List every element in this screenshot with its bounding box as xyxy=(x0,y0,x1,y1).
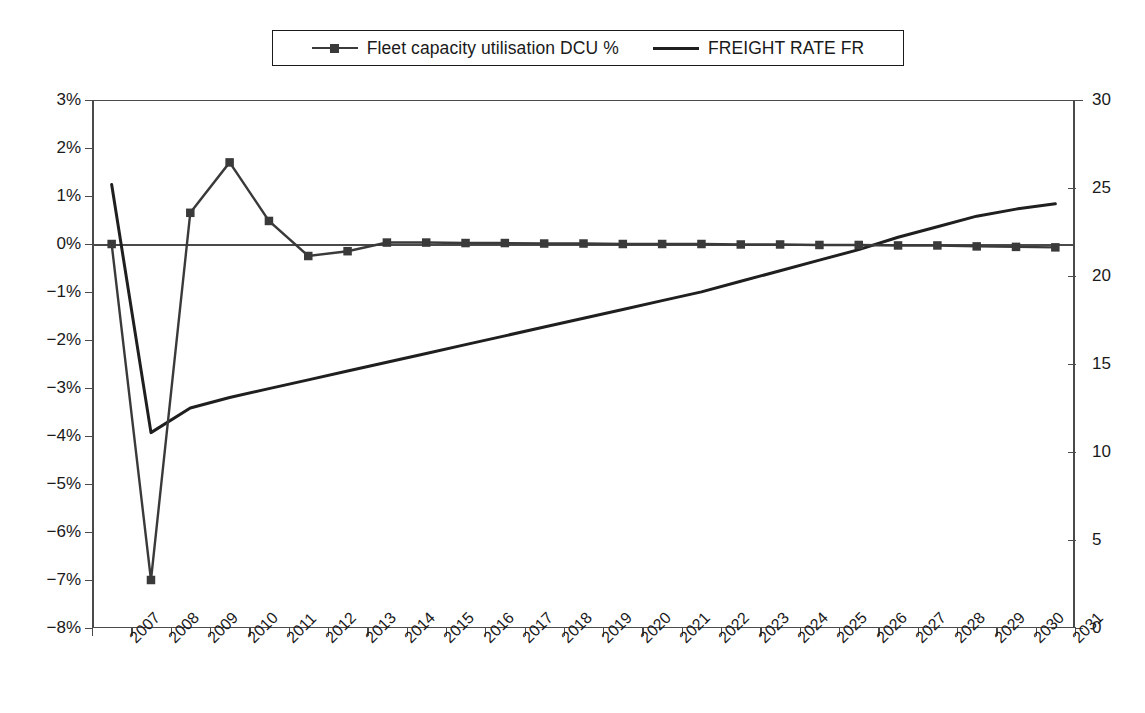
x-tick-label: 2031 xyxy=(1069,634,1082,647)
left-tick-label: 1% xyxy=(56,186,81,206)
dcu-data-point xyxy=(147,576,156,585)
right-tick-label: 30 xyxy=(1092,90,1111,110)
dcu-data-point xyxy=(776,240,785,249)
dcu-markers xyxy=(107,158,1059,584)
left-tick-label: 2% xyxy=(56,138,81,158)
left-tick-label: −3% xyxy=(47,378,82,398)
left-tick-label: −4% xyxy=(47,426,82,446)
dcu-data-point xyxy=(540,239,549,248)
x-tick-label: 2008 xyxy=(165,634,178,647)
dcu-data-point xyxy=(343,247,352,256)
chart-figure: Fleet capacity utilisation DCU % FREIGHT… xyxy=(0,0,1145,713)
left-tick xyxy=(85,436,92,437)
x-tick-label: 2028 xyxy=(951,634,964,647)
plot-area: 3%2%1%0%−1%−2%−3%−4%−5%−6%−7%−8% 3025201… xyxy=(92,100,1075,628)
left-tick-label: −8% xyxy=(47,618,82,638)
x-tick-label: 2027 xyxy=(912,634,925,647)
x-tick-label: 2016 xyxy=(480,634,493,647)
left-tick-label: −2% xyxy=(47,330,82,350)
left-tick-label: −5% xyxy=(47,474,82,494)
left-tick xyxy=(85,196,92,197)
dcu-data-point xyxy=(265,217,274,226)
x-tick-label: 2015 xyxy=(440,634,453,647)
right-tick-label: 5 xyxy=(1092,530,1101,550)
left-tick-label: −6% xyxy=(47,522,82,542)
x-tick-label: 2022 xyxy=(715,634,728,647)
x-tick-label: 2024 xyxy=(794,634,807,647)
x-tick-label: 2019 xyxy=(598,634,611,647)
x-tick-label: 2011 xyxy=(283,634,296,647)
x-tick-label: 2012 xyxy=(322,634,335,647)
legend-item-freight-rate: FREIGHT RATE FR xyxy=(653,38,864,59)
freight-rate-line xyxy=(112,184,1056,432)
dcu-data-point xyxy=(658,240,667,249)
right-tick-label: 20 xyxy=(1092,266,1111,286)
x-tick-label: 2014 xyxy=(401,634,414,647)
dcu-data-point xyxy=(579,239,588,248)
legend-label-dcu: Fleet capacity utilisation DCU % xyxy=(367,38,619,59)
x-tick-label: 2026 xyxy=(873,634,886,647)
dcu-data-point xyxy=(304,252,313,261)
dcu-data-point xyxy=(461,239,470,248)
series-layer xyxy=(92,100,1075,628)
right-tick xyxy=(1075,100,1083,101)
legend-marker-plain-line-icon xyxy=(653,42,699,54)
dcu-data-point xyxy=(422,238,431,247)
right-tick-label: 25 xyxy=(1092,178,1111,198)
left-tick xyxy=(85,292,92,293)
x-tick-label: 2021 xyxy=(676,634,689,647)
left-tick xyxy=(85,340,92,341)
dcu-data-point xyxy=(383,238,392,247)
left-tick xyxy=(85,484,92,485)
dcu-data-point xyxy=(1012,243,1021,252)
x-tick-label: 2013 xyxy=(362,634,375,647)
dcu-data-point xyxy=(854,241,863,250)
x-tick-label: 2018 xyxy=(558,634,571,647)
left-tick-label: −1% xyxy=(47,282,82,302)
dcu-data-point xyxy=(972,242,981,251)
x-tick-label: 2023 xyxy=(755,634,768,647)
right-tick-label: 15 xyxy=(1092,354,1111,374)
legend-item-dcu: Fleet capacity utilisation DCU % xyxy=(312,38,619,59)
dcu-data-point xyxy=(225,158,234,167)
x-tick-label: 2017 xyxy=(519,634,532,647)
dcu-data-point xyxy=(1051,243,1060,252)
dcu-data-point xyxy=(815,241,824,250)
x-tick-label: 2009 xyxy=(204,634,217,647)
left-tick xyxy=(85,532,92,533)
x-tick-label: 2007 xyxy=(126,634,139,647)
dcu-line xyxy=(112,162,1056,580)
x-tick-label: 2020 xyxy=(637,634,650,647)
left-tick xyxy=(85,244,92,245)
dcu-data-point xyxy=(501,239,510,248)
legend-marker-line-with-square-marker-icon xyxy=(312,42,358,54)
dcu-data-point xyxy=(619,240,628,249)
left-tick-label: 3% xyxy=(56,90,81,110)
dcu-data-point xyxy=(933,241,942,250)
left-tick xyxy=(85,580,92,581)
left-tick xyxy=(85,388,92,389)
x-tick-label: 2010 xyxy=(244,634,257,647)
x-tick xyxy=(92,627,93,636)
dcu-data-point xyxy=(107,240,116,249)
left-tick xyxy=(85,100,92,101)
dcu-data-point xyxy=(737,240,746,249)
left-tick-label: −7% xyxy=(47,570,82,590)
x-tick-label: 2030 xyxy=(1030,634,1043,647)
left-tick xyxy=(85,628,92,629)
dcu-data-point xyxy=(697,240,706,249)
right-tick-label: 10 xyxy=(1092,442,1111,462)
chart-legend: Fleet capacity utilisation DCU % FREIGHT… xyxy=(272,30,904,66)
dcu-data-point xyxy=(186,209,195,218)
dcu-data-point xyxy=(894,241,903,250)
legend-label-freight-rate: FREIGHT RATE FR xyxy=(708,38,864,59)
x-tick-label: 2025 xyxy=(833,634,846,647)
left-tick-label: 0% xyxy=(56,234,81,254)
x-tick-label: 2029 xyxy=(991,634,1004,647)
left-tick xyxy=(85,148,92,149)
